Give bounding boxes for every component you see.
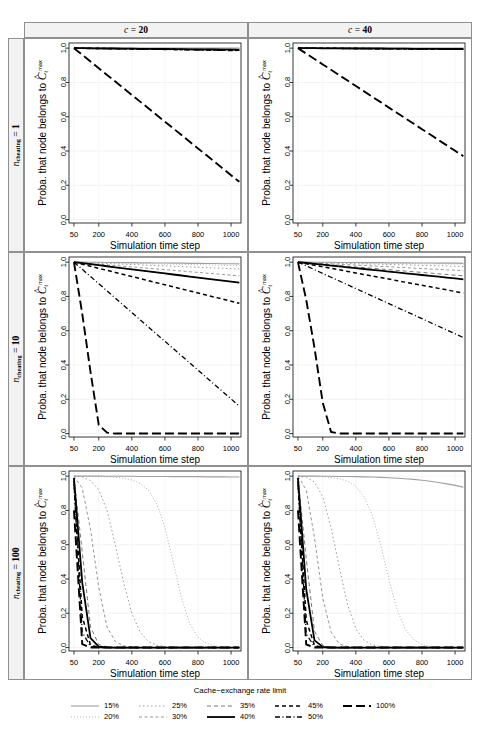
- legend-label: 25%: [172, 701, 187, 710]
- x-tick-label: 200: [84, 444, 114, 453]
- x-tick-label: 600: [150, 230, 180, 239]
- legend-entry-40%[interactable]: 40%: [206, 712, 274, 722]
- legend-entry-45%[interactable]: 45%: [274, 701, 342, 711]
- legend-key-100%: [342, 701, 372, 711]
- legend-label: 50%: [308, 712, 323, 721]
- legend-entry-100%[interactable]: 100%: [342, 701, 410, 711]
- x-tick-label: 1000: [440, 658, 470, 667]
- y-axis-label: Proba. that node belongs to ^Ctmax: [260, 43, 273, 223]
- panel-r10-c20: Proba. that node belongs to ^Ctmax0.00.2…: [24, 252, 248, 466]
- legend-label: 100%: [376, 701, 395, 710]
- legend-label: 20%: [104, 712, 119, 721]
- lattice-figure: c = 20c = 40ncheating = 1ncheating = 10n…: [0, 0, 480, 747]
- x-tick-label: 400: [117, 230, 147, 239]
- y-axis-label: Proba. that node belongs to ^Ctmax: [260, 257, 273, 437]
- row-strip-label: ncheating = 100: [11, 547, 21, 598]
- plot-area: [62, 250, 248, 444]
- x-tick-label: 800: [407, 658, 437, 667]
- legend-key-30%: [138, 712, 168, 722]
- panel-r1-c40: Proba. that node belongs to ^Ctmax0.00.2…: [248, 38, 472, 252]
- x-tick-label: 400: [117, 444, 147, 453]
- plot-area: [286, 36, 472, 230]
- x-tick-label: 200: [84, 230, 114, 239]
- x-tick-label: 600: [374, 230, 404, 239]
- x-tick-label: 400: [341, 444, 371, 453]
- x-tick-label: 1000: [216, 444, 246, 453]
- row-strip-10: ncheating = 10: [8, 252, 24, 466]
- legend-title: Cache−exchange rate limit: [0, 686, 480, 695]
- legend-key-35%: [206, 701, 236, 711]
- row-strip-1: ncheating = 1: [8, 38, 24, 252]
- x-tick-label: 1000: [440, 230, 470, 239]
- panel-r100-c20: Proba. that node belongs to ^Ctmax0.00.2…: [24, 466, 248, 680]
- panel-grid: c = 20c = 40ncheating = 1ncheating = 10n…: [8, 22, 472, 680]
- y-axis-label: Proba. that node belongs to ^Ctmax: [36, 43, 49, 223]
- x-tick-label: 800: [183, 658, 213, 667]
- plot-area: [62, 36, 248, 230]
- legend-label: 45%: [308, 701, 323, 710]
- plot-area: [62, 464, 248, 658]
- x-tick-label: 600: [374, 444, 404, 453]
- legend-entries: 15%25%35%45%100%20%30%40%50%: [70, 700, 410, 722]
- y-axis-label: Proba. that node belongs to ^Ctmax: [260, 471, 273, 651]
- x-tick-label: 200: [308, 230, 338, 239]
- legend-entry-35%[interactable]: 35%: [206, 701, 274, 711]
- column-strip-label: c = 40: [348, 25, 372, 35]
- x-tick-label: 400: [341, 658, 371, 667]
- legend-row: 20%30%40%50%: [70, 711, 410, 722]
- column-strip-label: c = 20: [124, 25, 148, 35]
- legend-key-25%: [138, 701, 168, 711]
- legend-entry-15%[interactable]: 15%: [70, 701, 138, 711]
- legend-entry-50%[interactable]: 50%: [274, 712, 342, 722]
- x-tick-label: 1000: [216, 658, 246, 667]
- x-tick-label: 200: [84, 658, 114, 667]
- row-strip-label: ncheating = 1: [11, 124, 21, 166]
- x-tick-label: 400: [117, 658, 147, 667]
- y-axis-label: Proba. that node belongs to ^Ctmax: [36, 257, 49, 437]
- x-axis-label: Simulation time step: [293, 668, 465, 679]
- x-tick-label: 800: [407, 444, 437, 453]
- legend-entry-20%[interactable]: 20%: [70, 712, 138, 722]
- panel-r10-c40: Proba. that node belongs to ^Ctmax0.00.2…: [248, 252, 472, 466]
- x-tick-label: 600: [374, 658, 404, 667]
- x-tick-label: 800: [183, 444, 213, 453]
- legend: Cache−exchange rate limit 15%25%35%45%10…: [0, 686, 480, 722]
- y-axis-label: Proba. that node belongs to ^Ctmax: [36, 471, 49, 651]
- plot-area: [286, 250, 472, 444]
- legend-label: 15%: [104, 701, 119, 710]
- legend-label: 35%: [240, 701, 255, 710]
- x-tick-label: 600: [150, 444, 180, 453]
- legend-label: 40%: [240, 712, 255, 721]
- legend-key-40%: [206, 712, 236, 722]
- x-tick-label: 800: [183, 230, 213, 239]
- x-tick-label: 200: [308, 658, 338, 667]
- x-axis-label: Simulation time step: [69, 668, 241, 679]
- legend-key-50%: [274, 712, 304, 722]
- legend-key-45%: [274, 701, 304, 711]
- plot-area: [286, 464, 472, 658]
- row-strip-100: ncheating = 100: [8, 466, 24, 680]
- panel-r1-c20: Proba. that node belongs to ^Ctmax0.00.2…: [24, 38, 248, 252]
- x-tick-label: 200: [308, 444, 338, 453]
- legend-label: 30%: [172, 712, 187, 721]
- legend-entry-25%[interactable]: 25%: [138, 701, 206, 711]
- x-tick-label: 600: [150, 658, 180, 667]
- legend-key-20%: [70, 712, 100, 722]
- row-strip-label: ncheating = 10: [11, 336, 21, 383]
- x-tick-label: 1000: [216, 230, 246, 239]
- legend-entry-30%[interactable]: 30%: [138, 712, 206, 722]
- legend-row: 15%25%35%45%100%: [70, 700, 410, 711]
- x-tick-label: 400: [341, 230, 371, 239]
- panel-r100-c40: Proba. that node belongs to ^Ctmax0.00.2…: [248, 466, 472, 680]
- x-tick-label: 800: [407, 230, 437, 239]
- legend-key-15%: [70, 701, 100, 711]
- x-tick-label: 1000: [440, 444, 470, 453]
